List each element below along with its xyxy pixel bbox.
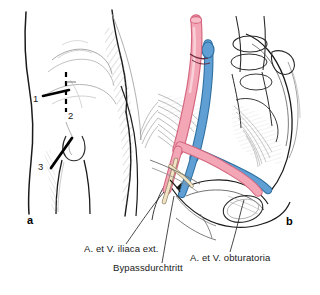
panel-a-body-drawing xyxy=(25,10,141,216)
panel-b-pelvis-vessels xyxy=(140,16,300,240)
marker-label-3: 3 xyxy=(38,161,43,172)
caption-obturatoria: A. et V. obturatoria xyxy=(190,252,270,263)
panel-letter-a: a xyxy=(27,214,33,226)
caption-bypassdurchtritt: Bypassdurchtritt xyxy=(113,262,183,273)
marker-label-1: 1 xyxy=(33,93,38,104)
marker-label-2: 2 xyxy=(68,110,73,121)
caption-iliaca-externa: A. et V. iliaca ext. xyxy=(84,243,159,254)
panel-letter-b: b xyxy=(286,215,293,227)
